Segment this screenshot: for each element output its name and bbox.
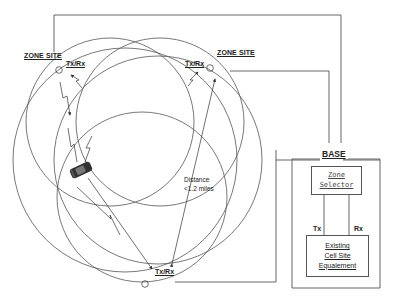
txrx-label-bottom: Tx/Rx bbox=[155, 268, 174, 275]
base-title: BASE bbox=[320, 150, 348, 159]
coverage-circle-outer-left bbox=[13, 48, 237, 272]
equipment-line1: Existing bbox=[325, 241, 350, 251]
equipment-line2: Cell Site bbox=[324, 251, 350, 261]
rx-link-label: Rx bbox=[354, 225, 363, 232]
signal-bolt-to-car-left bbox=[68, 128, 77, 162]
signal-bolt-upper-left bbox=[71, 75, 82, 88]
distance-label-line1: Distance bbox=[184, 176, 214, 185]
coverage-circle-upper-left bbox=[26, 38, 194, 206]
distance-arrow bbox=[172, 79, 215, 264]
signal-bolt-down-left bbox=[60, 82, 70, 115]
link-right-site-to-base bbox=[230, 71, 329, 143]
equipment-line3: Equalement bbox=[319, 261, 356, 271]
zone-site-label-right: ZONE SITE bbox=[217, 49, 255, 56]
cell-site-equipment-box: Existing Cell Site Equalement bbox=[306, 235, 369, 277]
zone-selector-line1: Zone bbox=[328, 171, 345, 180]
signal-bolt-to-bottom bbox=[77, 187, 120, 235]
signal-bolt-to-car-right bbox=[85, 136, 92, 162]
zone-selector-line2: Selector bbox=[320, 181, 354, 190]
zone-selector-box: Zone Selector bbox=[311, 166, 362, 195]
txrx-label-upper-right: Tx/Rx bbox=[185, 60, 204, 67]
link-left-site-to-base bbox=[54, 15, 341, 143]
txrx-label-upper-left: Tx/Rx bbox=[66, 60, 85, 67]
vehicle-icon bbox=[69, 161, 93, 179]
tx-link-label: Tx bbox=[313, 225, 321, 232]
distance-label-line2: <1.2 miles bbox=[184, 185, 214, 194]
link-bottom-site-to-base bbox=[175, 150, 276, 282]
zone-site-label-left: ZONE SITE bbox=[24, 52, 62, 59]
signal-arrow-to-bottom bbox=[88, 178, 152, 269]
distance-label: Distance <1.2 miles bbox=[184, 176, 214, 194]
